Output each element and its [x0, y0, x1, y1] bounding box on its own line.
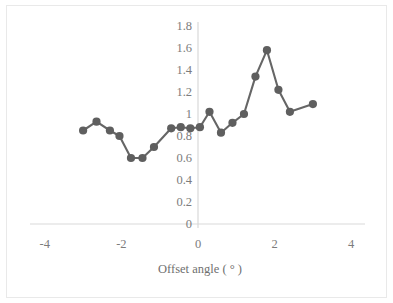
data-point [79, 126, 87, 134]
chart-plot-area [0, 0, 393, 303]
y-tick-label: 0.4 [150, 174, 192, 187]
data-point [115, 132, 123, 140]
data-point [205, 108, 213, 116]
data-point [138, 154, 146, 162]
y-tick-label: 0.6 [150, 152, 192, 165]
x-axis-title: Offset angle ( ° ) [100, 262, 300, 277]
data-point [127, 154, 135, 162]
y-tick-label: 1 [150, 108, 192, 121]
data-point [263, 46, 271, 54]
x-tick-label: -2 [101, 238, 141, 251]
data-point [274, 86, 282, 94]
y-tick-label: 1.4 [150, 64, 192, 77]
data-point [240, 110, 248, 118]
y-tick-label: 0 [150, 218, 192, 231]
data-point [92, 118, 100, 126]
y-tick-label: 0.2 [150, 196, 192, 209]
data-point [251, 73, 259, 81]
data-point [217, 129, 225, 137]
data-point [150, 143, 158, 151]
data-point [228, 119, 236, 127]
y-tick-label: 1.2 [150, 86, 192, 99]
y-tick-label: 1.8 [150, 20, 192, 33]
data-point [106, 126, 114, 134]
data-point [309, 100, 317, 108]
x-tick-label: 2 [255, 238, 295, 251]
x-tick-label: -4 [25, 238, 65, 251]
chart-container: 00.20.40.60.811.21.41.61.8 -4-2024 Dista… [0, 0, 393, 303]
y-tick-label: 0.8 [150, 130, 192, 143]
data-point [286, 108, 294, 116]
y-tick-label: 1.6 [150, 42, 192, 55]
x-tick-label: 0 [178, 238, 218, 251]
x-tick-label: 4 [331, 238, 371, 251]
data-point [196, 123, 204, 131]
